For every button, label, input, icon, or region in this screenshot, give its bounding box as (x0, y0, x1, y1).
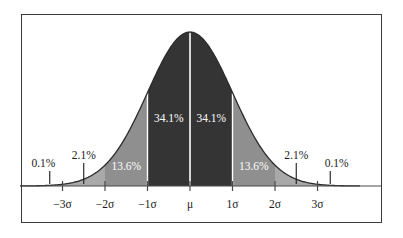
x-tick-label-3: μ (187, 198, 193, 211)
x-tick-label-0: −3σ (53, 198, 72, 210)
callout-0-1-right: 0.1% (325, 157, 349, 169)
x-tick-label-6: 3σ (312, 198, 325, 210)
region-left-core (148, 32, 191, 186)
distribution-chart: 13.6%34.1%34.1%13.6% 0.1%2.1%2.1%0.1% −3… (0, 0, 403, 238)
normal-distribution-figure: 13.6%34.1%34.1%13.6% 0.1%2.1%2.1%0.1% −3… (0, 0, 403, 238)
callout-2-1-left: 2.1% (72, 149, 96, 161)
callout-0-1-left: 0.1% (31, 157, 55, 169)
label-34-1-right: 34.1% (196, 112, 226, 124)
axis-tick-labels: −3σ−2σ−1σμ1σ2σ3σ (53, 198, 324, 211)
region-right-core (190, 32, 233, 186)
label-13-6-left: 13.6% (111, 160, 141, 172)
callout-2-1-right: 2.1% (284, 149, 308, 161)
x-tick-label-1: −2σ (96, 198, 115, 210)
x-tick-label-2: −1σ (138, 198, 157, 210)
label-13-6-right: 13.6% (239, 160, 269, 172)
x-tick-label-5: 2σ (269, 198, 282, 210)
label-34-1-left: 34.1% (154, 112, 184, 124)
x-tick-label-4: 1σ (227, 198, 240, 210)
